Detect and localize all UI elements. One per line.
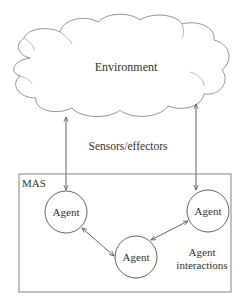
sensors-effectors-label: Sensors/effectors	[89, 141, 168, 153]
agent-label-3: Agent	[123, 252, 150, 263]
environment-label: Environment	[95, 61, 158, 73]
interaction-arrow-3-2	[151, 221, 188, 240]
interactions-label-line1: Agent	[189, 247, 216, 258]
mas-label: MAS	[22, 178, 46, 189]
agent-label-2: Agent	[195, 206, 222, 217]
agent-label-1: Agent	[53, 207, 80, 218]
interaction-arrow-1-3	[82, 228, 114, 256]
interactions-label-line2: interactions	[176, 260, 227, 271]
